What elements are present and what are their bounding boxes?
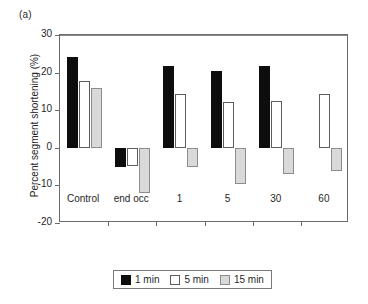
bar: [259, 66, 270, 148]
bar: [175, 94, 186, 148]
y-tick-label: 30: [12, 28, 52, 39]
white-square-icon: [170, 275, 180, 285]
y-tick-label: 20: [12, 66, 52, 77]
bar: [67, 57, 78, 148]
y-tick-mark: [55, 110, 60, 111]
legend-item: 15 min: [220, 274, 264, 285]
y-tick-label: 10: [12, 103, 52, 114]
y-tick-label: -20: [12, 216, 52, 227]
zero-baseline: [60, 35, 347, 36]
bar: [283, 148, 294, 174]
y-tick-mark: [55, 35, 60, 36]
chart-legend: 1 min5 min15 min: [113, 270, 272, 289]
y-axis-title: Percent segment shortening (%): [29, 31, 40, 221]
bar: [187, 148, 198, 167]
x-axis-label: 1: [177, 193, 183, 204]
x-tick-mark: [205, 221, 206, 226]
y-tick-label: 0: [12, 141, 52, 152]
bar: [223, 102, 234, 147]
black-square-icon: [121, 275, 131, 285]
panel-label: (a): [19, 9, 32, 20]
plot-area: 3020100-10-20: [59, 34, 348, 222]
y-tick-mark: [55, 223, 60, 224]
bar: [319, 94, 330, 147]
bar: [235, 148, 246, 184]
bar: [127, 148, 138, 166]
bar: [91, 88, 102, 148]
bar: [271, 101, 282, 148]
x-tick-mark: [156, 221, 157, 226]
y-tick-mark: [55, 73, 60, 74]
bar: [139, 148, 150, 193]
x-axis-label: 5: [225, 193, 231, 204]
bar: [211, 71, 222, 148]
figure-panel-a: (a) Percent segment shortening (%) 30201…: [0, 0, 368, 304]
legend-label: 15 min: [234, 274, 264, 285]
legend-item: 5 min: [170, 274, 208, 285]
bar: [79, 81, 90, 148]
x-tick-mark: [301, 221, 302, 226]
legend-label: 1 min: [135, 274, 159, 285]
legend-item: 1 min: [121, 274, 159, 285]
bar: [115, 148, 126, 167]
y-tick-mark: [55, 148, 60, 149]
x-axis-label: end occ: [114, 193, 149, 204]
x-axis-label: 30: [270, 193, 281, 204]
y-tick-mark: [55, 185, 60, 186]
x-axis-label: Control: [67, 193, 99, 204]
x-axis-label: 60: [318, 193, 329, 204]
bar: [331, 148, 342, 172]
x-tick-mark: [108, 221, 109, 226]
x-tick-mark: [253, 221, 254, 226]
gray-square-icon: [220, 275, 230, 285]
bar: [163, 66, 174, 148]
y-tick-label: -10: [12, 178, 52, 189]
legend-label: 5 min: [184, 274, 208, 285]
